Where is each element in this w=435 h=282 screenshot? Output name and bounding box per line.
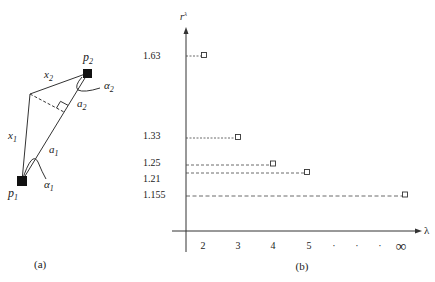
right-angle-marker [57, 101, 69, 108]
x-tick-3: 3 [236, 240, 241, 251]
label-p1: p1 [7, 186, 18, 202]
x-axis-arrow-icon [415, 229, 422, 234]
label-x1: x1 [7, 129, 17, 144]
y-axis-arrow-icon [184, 27, 189, 34]
panel-b: rλ λ 1.63 1.33 1.25 1.21 1.155 2 3 4 5 ·… [143, 10, 430, 273]
figure: p2 p1 x2 x1 a1 a2 α1 α2 (a) rλ λ 1.63 1.… [0, 0, 435, 282]
label-a2: a2 [77, 97, 87, 112]
y-tick-1.21: 1.21 [143, 173, 161, 184]
angle-alpha2-arc [77, 77, 100, 91]
side-x1 [22, 94, 30, 181]
x-tick-ellipsis-2: · [355, 240, 358, 251]
base-a1-a2 [22, 73, 88, 181]
x-tick-5: 5 [307, 240, 312, 251]
caption-b: (b) [296, 260, 309, 273]
label-p2: p2 [82, 50, 93, 66]
y-tick-1.155: 1.155 [143, 189, 166, 200]
y-tick-1.33: 1.33 [143, 130, 161, 141]
data-point-4 [271, 161, 276, 166]
y-axis-label: rλ [180, 10, 187, 22]
data-point-3 [236, 135, 241, 140]
point-p1 [17, 176, 27, 186]
data-point-infinity [403, 192, 408, 197]
label-alpha1: α1 [44, 178, 54, 193]
x-axis-label: λ [424, 224, 430, 236]
x-tick-ellipsis-3: · [378, 240, 381, 251]
caption-a: (a) [34, 258, 47, 271]
x-tick-ellipsis-1: · [332, 240, 335, 251]
label-a1: a1 [49, 143, 59, 158]
data-point-2 [202, 53, 207, 58]
x-tick-2: 2 [201, 240, 206, 251]
data-point-5 [305, 170, 310, 175]
panel-a: p2 p1 x2 x1 a1 a2 α1 α2 (a) [7, 50, 114, 271]
label-x2: x2 [43, 68, 53, 83]
point-p2 [83, 69, 92, 78]
y-tick-1.63: 1.63 [143, 50, 161, 61]
x-tick-4: 4 [271, 240, 276, 251]
label-alpha2: α2 [104, 79, 114, 94]
perpendicular-dashed [30, 94, 64, 112]
y-tick-1.25: 1.25 [143, 157, 161, 168]
x-tick-infinity: ∞ [396, 238, 407, 254]
